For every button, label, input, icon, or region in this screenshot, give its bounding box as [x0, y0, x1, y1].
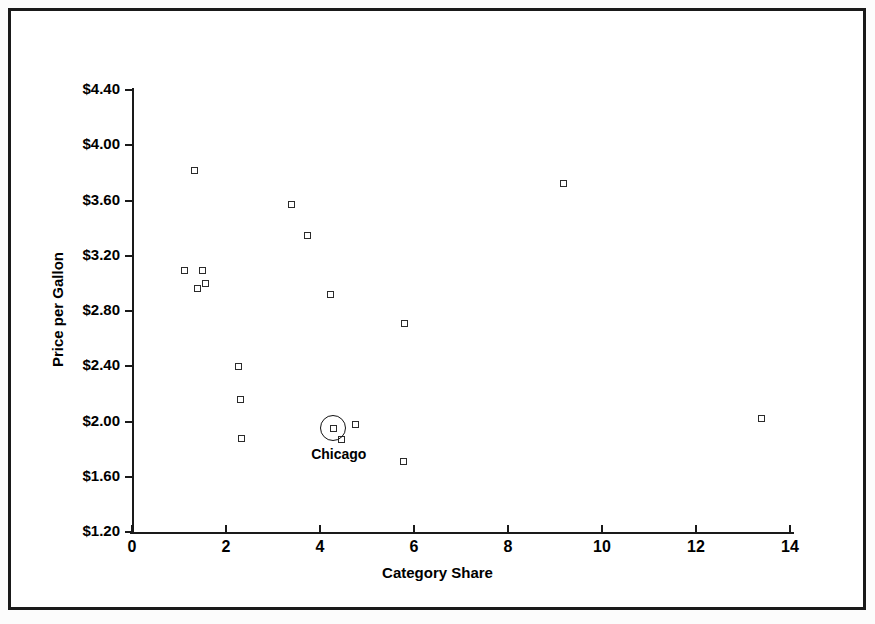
- y-tick-label: $4.40: [50, 80, 120, 97]
- data-point: [327, 291, 334, 298]
- data-point: [202, 280, 209, 287]
- y-tick-mark: [125, 365, 133, 367]
- x-tick-label: 2: [206, 538, 246, 556]
- y-tick-mark: [125, 89, 133, 91]
- y-tick-mark: [125, 144, 133, 146]
- y-tick-label: $4.00: [50, 135, 120, 152]
- chart-screenshot: Price per Gallon Category Share $1.20$1.…: [0, 0, 875, 624]
- scatter-plot: Price per Gallon Category Share $1.20$1.…: [0, 0, 875, 624]
- x-tick-label: 6: [394, 538, 434, 556]
- x-tick-mark: [507, 525, 509, 533]
- data-point: [560, 180, 567, 187]
- y-tick-label: $1.20: [50, 522, 120, 539]
- x-tick-mark: [601, 525, 603, 533]
- x-tick-mark: [413, 525, 415, 533]
- data-point: [194, 285, 201, 292]
- data-point: [238, 435, 245, 442]
- x-tick-label: 0: [112, 538, 152, 556]
- y-tick-label: $1.60: [50, 467, 120, 484]
- x-tick-mark: [131, 525, 133, 533]
- y-tick-mark: [125, 310, 133, 312]
- data-point: [199, 267, 206, 274]
- data-point: [304, 232, 311, 239]
- x-tick-mark: [695, 525, 697, 533]
- x-tick-mark: [225, 525, 227, 533]
- x-axis-title: Category Share: [0, 564, 875, 581]
- y-tick-label: $2.80: [50, 301, 120, 318]
- y-tick-label: $2.00: [50, 412, 120, 429]
- data-point: [235, 363, 242, 370]
- y-tick-label: $3.20: [50, 246, 120, 263]
- point-annotation-label: Chicago: [311, 446, 366, 462]
- y-tick-label: $2.40: [50, 356, 120, 373]
- y-tick-label: $3.60: [50, 191, 120, 208]
- data-point: [352, 421, 359, 428]
- y-tick-mark: [125, 476, 133, 478]
- data-point: [288, 201, 295, 208]
- x-tick-label: 14: [770, 538, 810, 556]
- data-point: [191, 167, 198, 174]
- y-tick-mark: [125, 200, 133, 202]
- y-tick-mark: [125, 421, 133, 423]
- x-tick-label: 4: [300, 538, 340, 556]
- data-point: [401, 320, 408, 327]
- x-tick-mark: [789, 525, 791, 533]
- data-point: [237, 396, 244, 403]
- x-tick-mark: [319, 525, 321, 533]
- x-tick-label: 12: [676, 538, 716, 556]
- y-tick-mark: [125, 255, 133, 257]
- data-point: [400, 458, 407, 465]
- x-tick-label: 8: [488, 538, 528, 556]
- data-point: [181, 267, 188, 274]
- x-tick-label: 10: [582, 538, 622, 556]
- data-point: [758, 415, 765, 422]
